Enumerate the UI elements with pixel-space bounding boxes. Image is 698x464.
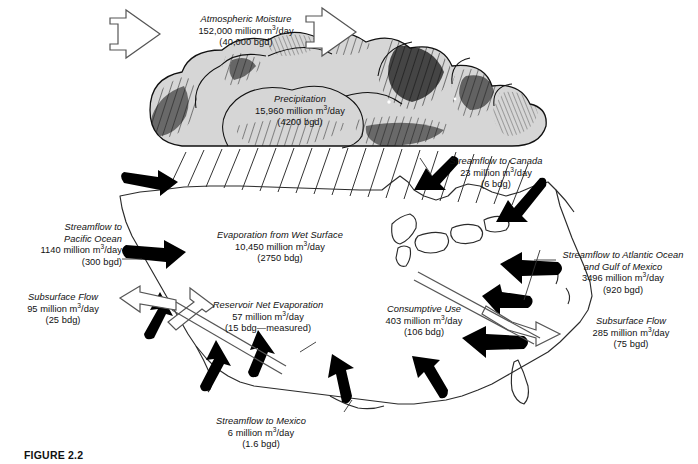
label-value: 57 million m3/day [170, 312, 366, 324]
label-title: Precipitation [210, 94, 390, 106]
arrow-streamflow-gulf [412, 356, 448, 398]
label-streamflow-pacific: Streamflow to Pacific Ocean 1140 million… [0, 222, 122, 268]
label-value: 6 million m3/day [166, 428, 356, 440]
leader-consumptive [300, 342, 316, 352]
figure-caption: FIGURE 2.2 [24, 449, 83, 461]
label-title: Streamflow to Mexico [166, 416, 356, 428]
cloud-group [150, 32, 546, 148]
label-value: 1140 million m3/day [0, 245, 122, 257]
label-alt-value: (1.6 bgd) [166, 439, 356, 451]
label-value: 10,450 million m3/day [180, 242, 380, 254]
label-alt-value: (2750 bdg) [180, 253, 380, 265]
label-evaporation-wet-surface: Evaporation from Wet Surface 10,450 mill… [180, 230, 380, 265]
label-alt-value: (25 bdg) [2, 315, 124, 327]
label-title: Subsurface Flow [566, 316, 696, 328]
arrow-reservoir-evaporation [248, 330, 275, 377]
label-alt-value: (4200 bgd) [210, 117, 390, 129]
label-reservoir-net-evaporation: Reservoir Net Evaporation 57 million m3/… [170, 300, 366, 335]
arrow-streamflow-mexico-west [200, 340, 231, 391]
hydrologic-cycle-figure: Atmospheric Moisture 152,000 million m3/… [0, 0, 698, 464]
label-alt-value: (40,000 bgd) [146, 37, 346, 49]
label-value: 23 million m3/day [416, 168, 576, 180]
label-alt-value: (300 bgd) [0, 257, 122, 269]
label-value: 95 million m3/day [2, 304, 124, 316]
label-alt-value: (920 bgd) [548, 285, 698, 297]
label-title: Reservoir Net Evaporation [170, 300, 366, 312]
label-value: 403 million m3/day [354, 316, 494, 328]
label-title: Atmospheric Moisture [146, 14, 346, 26]
label-title: Evaporation from Wet Surface [180, 230, 380, 242]
label-value: 285 million m3/day [566, 328, 696, 340]
label-consumptive-use: Consumptive Use 403 million m3/day (106 … [354, 304, 494, 339]
label-atmospheric-moisture: Atmospheric Moisture 152,000 million m3/… [146, 14, 346, 49]
label-precipitation: Precipitation 15,960 million m3/day (420… [210, 94, 390, 129]
label-value: 15,960 million m3/day [210, 106, 390, 118]
label-subsurface-flow-east: Subsurface Flow 285 million m3/day (75 b… [566, 316, 696, 351]
label-streamflow-canada: Streamflow to Canada 23 million m3/day (… [416, 156, 576, 191]
label-title: Consumptive Use [354, 304, 494, 316]
arrow-streamflow-pacific-north [121, 170, 178, 196]
label-title-line2: and Gulf of Mexico [548, 262, 698, 274]
label-alt-value: (106 bdg) [354, 327, 494, 339]
label-value: 3496 million m3/day [548, 273, 698, 285]
label-title-line1: Streamflow to [0, 222, 122, 234]
label-subsurface-flow-west: Subsurface Flow 95 million m3/day (25 bd… [2, 292, 124, 327]
label-streamflow-atlantic: Streamflow to Atlantic Ocean and Gulf of… [548, 250, 698, 296]
label-title-line1: Streamflow to Atlantic Ocean [548, 250, 698, 262]
label-value: 152,000 million m3/day [146, 26, 346, 38]
label-streamflow-mexico: Streamflow to Mexico 6 million m3/day (1… [166, 416, 356, 451]
label-alt-value: (6 bdg) [416, 179, 576, 191]
label-alt-value: (75 bgd) [566, 339, 696, 351]
cloud-highlight [454, 98, 457, 101]
label-title: Streamflow to Canada [416, 156, 576, 168]
label-alt-value: (15 bdg—measured) [170, 323, 366, 335]
label-title: Subsurface Flow [2, 292, 124, 304]
arrow-streamflow-pacific [122, 240, 186, 269]
